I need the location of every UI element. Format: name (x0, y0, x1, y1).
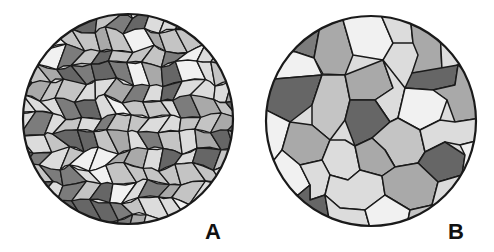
grain (159, 0, 186, 18)
grain (211, 62, 232, 86)
grain (230, 64, 248, 83)
grain (43, 12, 64, 35)
fine-grain-polygons (2, 0, 256, 240)
panel-label-b: B (448, 221, 464, 243)
grain (70, 0, 98, 16)
grain (160, 218, 187, 233)
grain (212, 183, 233, 205)
panel-label-a: A (205, 221, 221, 243)
grain (2, 60, 32, 85)
grain (23, 31, 46, 51)
grain (36, 182, 63, 203)
grain (410, 14, 442, 73)
grain (440, 30, 465, 70)
grain (27, 182, 53, 202)
grain (76, 220, 103, 239)
grain (71, 11, 97, 33)
panel-a-fine-grains (2, 0, 256, 240)
grain (227, 147, 255, 171)
coarse-grain-polygons (258, 8, 480, 235)
grain (36, 201, 63, 221)
figure-canvas: A B (0, 0, 494, 252)
grain-structure-diagram (0, 0, 494, 252)
panel-b-coarse-grains (258, 8, 480, 235)
grain (95, 0, 120, 15)
